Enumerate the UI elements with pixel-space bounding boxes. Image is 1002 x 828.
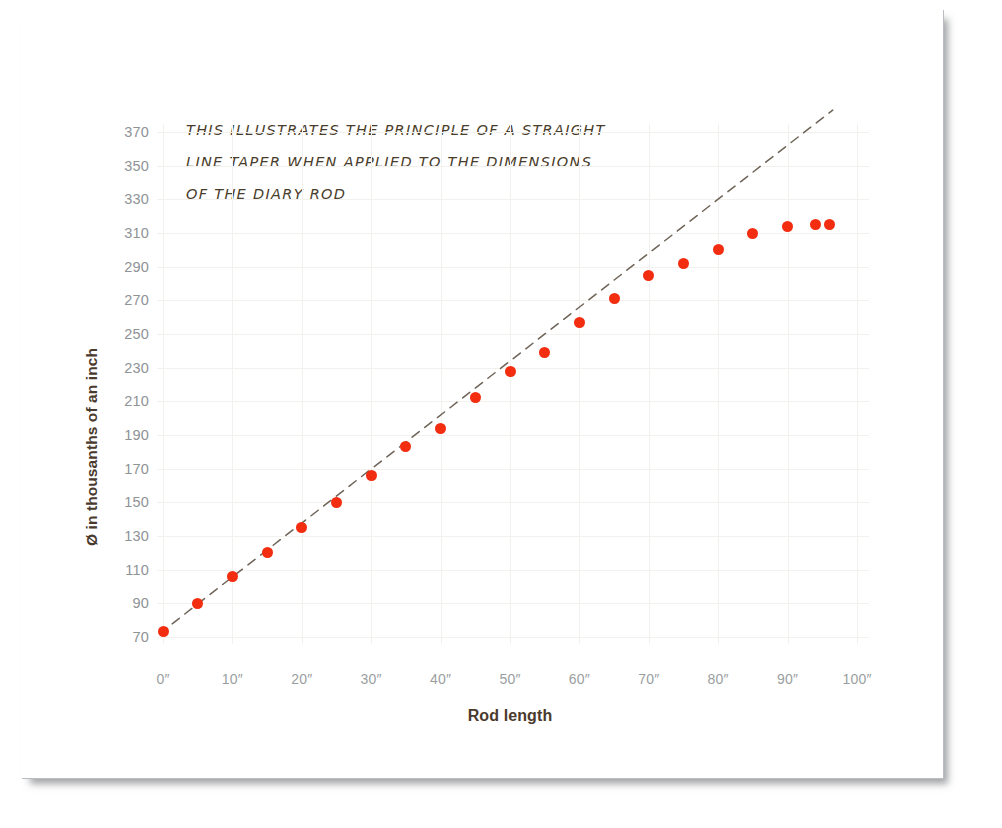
gridline-horizontal [157, 502, 869, 503]
data-point [192, 598, 203, 609]
data-point [366, 470, 377, 481]
gridline-horizontal [157, 637, 869, 638]
y-axis-tick-label: 270 [124, 292, 149, 308]
x-axis-tick-label: 20″ [291, 671, 312, 687]
gridline-horizontal [157, 132, 869, 133]
x-axis-title-label: Rod length [468, 707, 553, 724]
gridline-horizontal [157, 570, 869, 571]
data-point [747, 228, 758, 239]
gridline-vertical [510, 124, 511, 644]
y-axis-tick-label: 90 [132, 595, 149, 611]
y-axis-tick-label: 70 [132, 629, 149, 645]
data-point [824, 219, 835, 230]
data-point [810, 219, 821, 230]
gridline-horizontal [157, 233, 869, 234]
gridline-horizontal [157, 334, 869, 335]
x-axis-tick-label: 70″ [638, 671, 659, 687]
y-axis-tick-label: 190 [124, 427, 149, 443]
x-axis-tick-label: 100″ [842, 671, 871, 687]
data-point [782, 221, 793, 232]
data-point [435, 423, 446, 434]
gridline-horizontal [157, 469, 869, 470]
data-point [262, 547, 273, 558]
x-axis-title: Rod length [163, 707, 857, 725]
y-axis-tick-label: 130 [124, 528, 149, 544]
gridline-vertical [579, 124, 580, 644]
gridline-horizontal [157, 300, 869, 301]
gridline-vertical [302, 124, 303, 644]
gridline-horizontal [157, 199, 869, 200]
gridline-vertical [441, 124, 442, 644]
data-point [296, 522, 307, 533]
y-axis-tick-label: 150 [124, 494, 149, 510]
y-axis-tick-label: 250 [124, 326, 149, 342]
y-axis-title: Ø in thousanths of an inch [80, 282, 104, 612]
data-point [505, 366, 516, 377]
gridline-vertical [232, 124, 233, 644]
gridline-horizontal [157, 603, 869, 604]
gridline-horizontal [157, 536, 869, 537]
x-axis-tick-label: 30″ [361, 671, 382, 687]
data-point [539, 347, 550, 358]
plot-area: 3703503303102902702502302101901701501301… [163, 132, 857, 637]
x-axis-tick-label: 80″ [708, 671, 729, 687]
y-axis-tick-label: 170 [124, 461, 149, 477]
data-point [574, 317, 585, 328]
gridline-horizontal [157, 435, 869, 436]
x-axis-tick-label: 40″ [430, 671, 451, 687]
x-axis-tick-label: 10″ [222, 671, 243, 687]
data-point [643, 270, 654, 281]
data-point [331, 497, 342, 508]
x-axis-tick-label: 60″ [569, 671, 590, 687]
gridline-vertical [371, 124, 372, 644]
x-axis-tick-label: 0″ [156, 671, 169, 687]
gridline-horizontal [157, 401, 869, 402]
y-axis-tick-label: 370 [124, 124, 149, 140]
gridline-vertical [718, 124, 719, 644]
gridline-horizontal [157, 267, 869, 268]
y-axis-tick-label: 290 [124, 259, 149, 275]
y-axis-tick-label: 230 [124, 360, 149, 376]
data-point [227, 571, 238, 582]
data-point [713, 244, 724, 255]
gridline-vertical [163, 124, 164, 644]
y-axis-tick-label: 330 [124, 191, 149, 207]
trendline [153, 107, 873, 647]
gridline-horizontal [157, 166, 869, 167]
x-axis-tick-label: 90″ [777, 671, 798, 687]
gridline-vertical [857, 124, 858, 644]
y-axis-tick-label: 110 [125, 562, 149, 578]
y-axis-tick-label: 310 [124, 225, 149, 241]
data-point [158, 626, 169, 637]
data-point [678, 258, 689, 269]
gridline-vertical [649, 124, 650, 644]
data-point [400, 441, 411, 452]
data-point [609, 293, 620, 304]
y-axis-tick-label: 210 [124, 393, 149, 409]
y-axis-tick-label: 350 [124, 158, 149, 174]
x-axis-tick-label: 50″ [499, 671, 520, 687]
scanned-page-sheet: Ø in thousanths of an inch Rod length TH… [22, 10, 944, 779]
y-axis-title-label: Ø in thousanths of an inch [83, 348, 101, 546]
gridline-vertical [788, 124, 789, 644]
